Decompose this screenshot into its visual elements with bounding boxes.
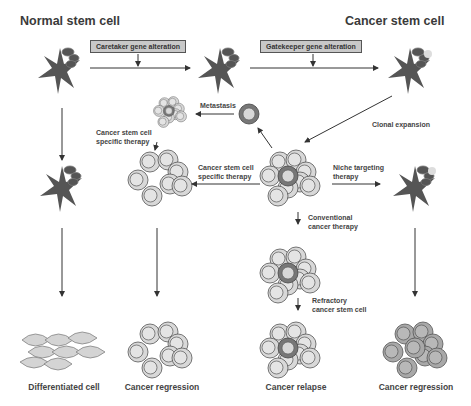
cancer-regression-left-caption: Cancer regression	[112, 382, 212, 392]
niche-therapy-label: Niche targeting therapy	[333, 163, 384, 181]
csc-therapy-mid-label: Cancer stem cell specific therapy	[198, 163, 254, 181]
differentiated-cell-caption: Differentiated cell	[14, 382, 114, 392]
caretaker-gene-box: Caretaker gene alteration	[90, 40, 186, 53]
intermediate-stem-cell-icon	[198, 48, 240, 94]
gatekeeper-gene-box: Gatekeeper gene alteration	[260, 40, 362, 53]
diagram-graphics	[0, 0, 471, 406]
cancer-stem-cell-icon	[388, 48, 430, 94]
normal-stem-cell-icon	[38, 48, 80, 94]
normal-stem-cell-icon	[40, 166, 82, 212]
csc-therapy-top-label: Cancer stem cell specific therapy	[96, 128, 152, 146]
conventional-therapy-label: Conventional cancer therapy	[308, 213, 358, 231]
cancer-relapse-caption: Cancer relapse	[246, 382, 346, 392]
clonal-expansion-label: Clonal expansion	[372, 120, 430, 129]
normal-stem-cell-title: Normal stem cell	[20, 14, 120, 28]
metastatic-csc-icon	[239, 104, 259, 124]
cancer-stem-cell-title: Cancer stem cell	[345, 14, 444, 28]
cancer-regression-right-caption: Cancer regression	[366, 382, 466, 392]
metastasis-label: Metastasis	[200, 101, 236, 110]
refractory-csc-label: Refractory cancer stem cell	[312, 296, 366, 314]
